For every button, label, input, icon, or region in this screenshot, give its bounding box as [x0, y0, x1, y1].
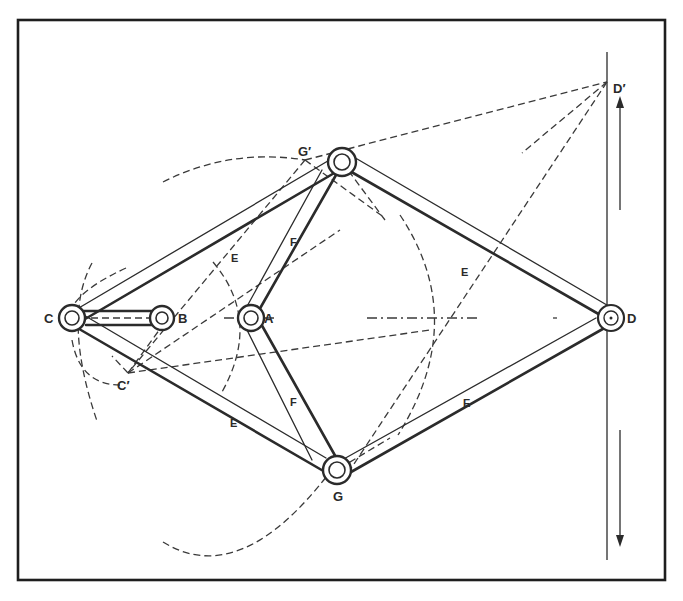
- joint-G: [323, 456, 351, 484]
- label-E-lower-left: E: [230, 417, 237, 429]
- joint-D: [598, 305, 624, 331]
- down-arrow-icon: [616, 430, 624, 547]
- label-C-prime: C′: [117, 378, 130, 393]
- link-E-upper-left: [72, 155, 338, 322]
- label-E-upper-right: E: [461, 266, 468, 278]
- label-E-lower-right: E: [463, 397, 470, 409]
- joint-top: [328, 148, 356, 176]
- label-F-upper: F: [290, 236, 297, 248]
- joint-B: [150, 306, 174, 330]
- joint-C: [59, 305, 85, 331]
- label-B: B: [178, 311, 187, 326]
- label-G: G: [333, 489, 343, 504]
- label-D: D: [627, 311, 636, 326]
- label-C: C: [44, 311, 54, 326]
- up-arrow-icon: [616, 96, 624, 210]
- label-E-upper-left: E: [231, 252, 238, 264]
- link-F-lower: [245, 322, 342, 468]
- joint-A: [238, 305, 264, 331]
- link-E-lower-right: [342, 318, 608, 476]
- label-A: A: [264, 311, 274, 326]
- label-F-lower: F: [290, 396, 297, 408]
- link-E-upper-right: [348, 156, 612, 316]
- link-E-lower-left: [74, 314, 332, 476]
- linkage-diagram: C B A G D D′ G′ C′ E E E E F F: [0, 0, 683, 601]
- label-D-prime: D′: [613, 81, 626, 96]
- label-G-prime: G′: [298, 144, 311, 159]
